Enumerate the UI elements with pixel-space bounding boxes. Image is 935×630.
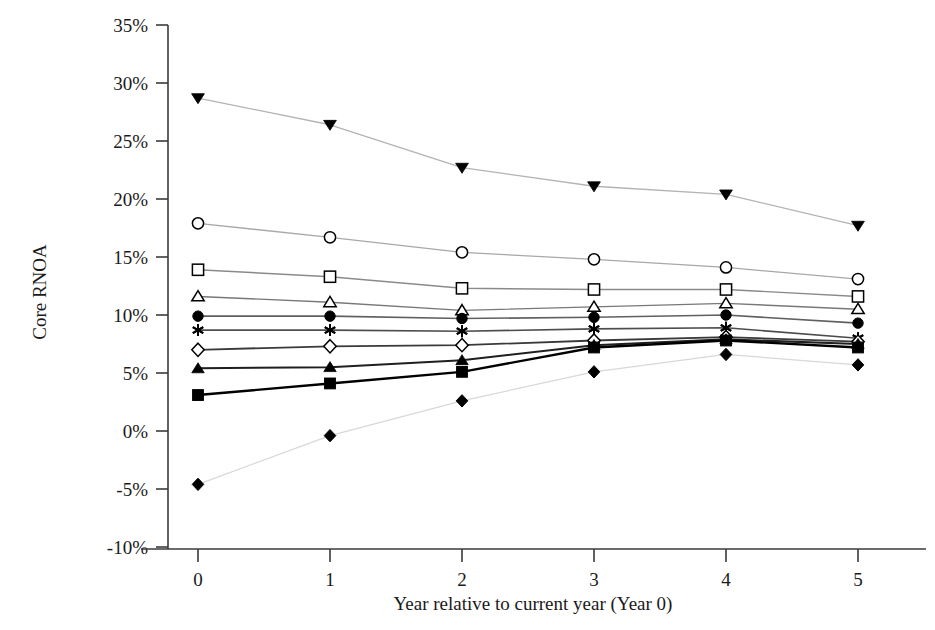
y-tick-label: 0% (123, 421, 149, 442)
data-point-filled-circle (193, 311, 203, 321)
series-markers (192, 94, 865, 232)
data-point-open-circle (588, 254, 599, 265)
series-line (198, 223, 858, 279)
y-tick-label: 20% (113, 189, 148, 210)
data-point-open-square (456, 283, 467, 294)
y-tick-label: 10% (113, 305, 148, 326)
series-markers (192, 348, 864, 490)
data-point-filled-circle (325, 311, 335, 321)
y-axis-title: Core RNOA (29, 244, 50, 340)
series-line (198, 296, 858, 310)
series-line (198, 98, 858, 226)
data-point-filled-square (589, 342, 600, 353)
data-point-filled-diamond (588, 366, 600, 378)
data-point-open-circle (852, 273, 863, 284)
data-point-filled-diamond (456, 395, 468, 407)
data-point-filled-square (853, 342, 864, 353)
series-markers (192, 264, 863, 302)
data-point-filled-circle (589, 312, 599, 322)
series-line (198, 315, 858, 323)
data-point-open-triangle-up (720, 298, 732, 308)
data-point-open-triangle-up (192, 291, 204, 301)
x-axis-tick-labels: 012345 (193, 569, 863, 590)
data-point-open-square (192, 264, 203, 275)
x-tick-label: 2 (457, 569, 467, 590)
data-point-open-diamond (456, 339, 468, 352)
data-point-filled-triangle-down (324, 120, 337, 130)
data-point-open-circle (192, 218, 203, 229)
y-axis: -10%-5%0%5%10%15%20%25%30%35% Core RNOA (29, 15, 168, 558)
y-axis-tick-labels: -10%-5%0%5%10%15%20%25%30%35% (107, 15, 148, 558)
series-lines-layer (198, 98, 858, 484)
data-point-filled-square (193, 390, 204, 401)
y-tick-label: 25% (113, 131, 148, 152)
y-tick-label: 15% (113, 247, 148, 268)
data-point-filled-circle (721, 310, 731, 320)
y-tick-label: -10% (107, 537, 148, 558)
chart-figure: -10%-5%0%5%10%15%20%25%30%35% Core RNOA … (0, 0, 935, 630)
x-axis-title: Year relative to current year (Year 0) (394, 593, 673, 615)
data-point-filled-square (325, 378, 336, 389)
data-point-open-diamond (192, 343, 204, 356)
data-point-filled-square (457, 366, 468, 377)
y-tick-label: 35% (113, 15, 148, 36)
y-tick-label: 5% (123, 363, 149, 384)
data-point-filled-circle (853, 318, 863, 328)
y-axis-ticks (156, 25, 168, 547)
x-tick-label: 1 (325, 569, 335, 590)
series-line (198, 270, 858, 297)
x-tick-label: 0 (193, 569, 203, 590)
data-point-filled-diamond (192, 478, 204, 490)
data-point-open-square (588, 284, 599, 295)
core-rnoa-line-chart: -10%-5%0%5%10%15%20%25%30%35% Core RNOA … (0, 0, 935, 630)
series-markers (193, 310, 863, 329)
y-tick-label: -5% (116, 479, 148, 500)
series-line (198, 328, 858, 338)
data-point-open-circle (720, 262, 731, 273)
data-point-open-square (720, 284, 731, 295)
data-point-open-square (324, 271, 335, 282)
data-point-filled-diamond (720, 348, 732, 360)
data-point-filled-diamond (324, 429, 336, 441)
series-line (198, 354, 858, 484)
data-point-open-square (852, 291, 863, 302)
data-point-open-circle (324, 232, 335, 243)
data-point-filled-triangle-down (852, 221, 865, 231)
x-axis-ticks (198, 549, 858, 562)
x-tick-label: 4 (721, 569, 731, 590)
series-markers (192, 291, 864, 315)
data-point-open-circle (456, 247, 467, 258)
data-point-filled-diamond (852, 359, 864, 371)
y-tick-label: 30% (113, 73, 148, 94)
data-point-open-diamond (324, 340, 336, 353)
x-tick-label: 3 (589, 569, 599, 590)
data-point-filled-circle (457, 313, 467, 323)
data-point-filled-square (721, 335, 732, 346)
x-axis: 012345 Year relative to current year (Ye… (141, 549, 926, 615)
x-tick-label: 5 (853, 569, 863, 590)
